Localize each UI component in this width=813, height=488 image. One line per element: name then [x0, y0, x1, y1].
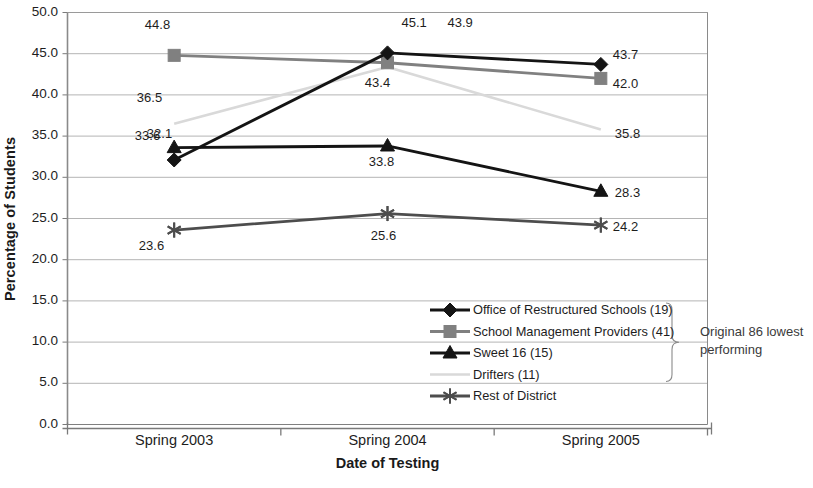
legend-item-1: Office of Restructured Schools (19) — [473, 302, 673, 317]
data-point-label: 43.7 — [613, 47, 638, 62]
data-point-label: 43.9 — [448, 15, 473, 30]
data-point-label: 24.2 — [613, 219, 638, 234]
data-point-label: 25.6 — [324, 228, 444, 243]
annotation-line-1: Original 86 lowest — [700, 324, 803, 339]
line-chart: Percentage of Students Date of Testing 0… — [0, 0, 813, 488]
data-point-label: 35.8 — [615, 126, 640, 141]
data-point-label: 36.5 — [42, 90, 162, 105]
legend-item-3: Sweet 16 (15) — [473, 345, 553, 360]
data-point-label: 45.1 — [402, 15, 427, 30]
data-point-label: 23.6 — [44, 238, 164, 253]
marker-diamond — [167, 153, 181, 167]
marker-square — [168, 49, 180, 61]
data-point-label: 42.0 — [613, 76, 638, 91]
annotation-line-2: performing — [700, 342, 762, 357]
annotation-text: Original 86 lowest performing — [700, 323, 803, 359]
legend-item-2: School Management Providers (41) — [473, 324, 674, 339]
legend-item-5: Rest of District — [473, 388, 556, 403]
marker-square — [444, 326, 456, 338]
data-point-label: 44.8 — [50, 17, 170, 32]
data-point-label: 43.4 — [318, 75, 438, 90]
data-point-label: 33.8 — [322, 154, 442, 169]
marker-diamond — [594, 57, 608, 71]
marker-diamond — [443, 303, 457, 317]
data-point-label: 33.6 — [40, 128, 160, 143]
data-point-label: 28.3 — [615, 185, 640, 200]
legend-item-4: Drifters (11) — [473, 367, 540, 382]
marker-square — [595, 72, 607, 84]
